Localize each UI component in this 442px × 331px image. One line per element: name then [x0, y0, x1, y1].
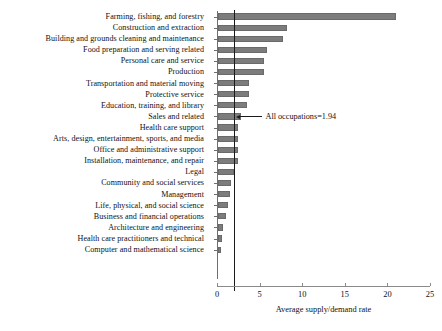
bar-row	[218, 67, 264, 78]
y-axis-tick	[214, 17, 217, 18]
category-label: Sales and related	[0, 111, 208, 122]
category-label: Computer and mathematical science	[0, 244, 208, 255]
reference-line	[234, 10, 236, 291]
bar	[218, 180, 231, 186]
x-axis-tick-label: 10	[298, 290, 306, 299]
x-axis-tick-label: 5	[258, 290, 262, 299]
bar	[218, 213, 226, 219]
category-label: Building and grounds cleaning and mainte…	[0, 33, 208, 44]
x-axis-tick	[302, 283, 303, 286]
x-axis-title: Average supply/demand rate	[217, 305, 430, 314]
category-label: Business and financial operations	[0, 211, 208, 222]
y-axis-tick	[214, 116, 217, 117]
x-axis-tick-label: 0	[215, 290, 219, 299]
reference-line-label: All occupations=1.94	[266, 112, 337, 121]
y-axis-tick	[214, 250, 217, 251]
category-label: Office and administrative support	[0, 144, 208, 155]
category-label: Management	[0, 189, 208, 200]
y-axis-tick	[214, 105, 217, 106]
category-label: Protective service	[0, 89, 208, 100]
bar-row	[218, 244, 221, 255]
y-axis-tick	[214, 227, 217, 228]
category-label: Health care support	[0, 122, 208, 133]
x-axis-tick	[260, 283, 261, 286]
bar-row	[218, 166, 234, 177]
bar-row	[218, 222, 223, 233]
supply-demand-bar-chart: Farming, fishing, and forestryConstructi…	[0, 0, 442, 331]
x-axis-tick-label: 25	[426, 290, 434, 299]
x-axis-tick	[217, 283, 218, 286]
x-axis-tick-label: 15	[341, 290, 349, 299]
y-axis-tick	[214, 150, 217, 151]
plot-area: All occupations=1.94	[217, 11, 430, 279]
bar	[218, 69, 264, 75]
bar-row	[218, 100, 247, 111]
category-label: Farming, fishing, and forestry	[0, 11, 208, 22]
y-axis-tick	[214, 139, 217, 140]
bar	[218, 235, 222, 241]
bar	[218, 169, 234, 175]
y-axis-tick	[214, 172, 217, 173]
y-axis-tick	[214, 83, 217, 84]
x-axis-tick	[345, 283, 346, 286]
bar-row	[218, 178, 231, 189]
bar-row	[218, 33, 283, 44]
y-axis-tick	[214, 194, 217, 195]
bar	[218, 13, 396, 19]
y-axis-tick	[214, 61, 217, 62]
x-axis-tick	[387, 283, 388, 286]
bar-row	[218, 22, 287, 33]
category-label: Legal	[0, 166, 208, 177]
y-axis-tick	[214, 239, 217, 240]
bar-row	[218, 200, 228, 211]
y-axis-tick	[214, 50, 217, 51]
bar	[218, 47, 267, 53]
category-label: Education, training, and library	[0, 100, 208, 111]
bar	[218, 247, 221, 253]
bar	[218, 191, 230, 197]
y-axis-tick	[214, 216, 217, 217]
category-label: Arts, design, entertainment, sports, and…	[0, 133, 208, 144]
bar-row	[218, 44, 267, 55]
bar	[218, 224, 223, 230]
bar	[218, 58, 264, 64]
y-axis-tick	[214, 128, 217, 129]
bar	[218, 202, 228, 208]
bar	[218, 102, 247, 108]
category-label: Production	[0, 66, 208, 77]
y-axis-tick	[214, 28, 217, 29]
y-axis-tick	[214, 183, 217, 184]
category-label: Installation, maintenance, and repair	[0, 155, 208, 166]
reference-line-annotation: All occupations=1.94	[236, 112, 337, 121]
category-label: Life, physical, and social science	[0, 200, 208, 211]
x-axis-tick-label: 20	[383, 290, 391, 299]
category-label: Personal care and service	[0, 55, 208, 66]
category-label: Construction and extraction	[0, 22, 208, 33]
category-label-column: Farming, fishing, and forestryConstructi…	[0, 11, 208, 279]
category-label: Community and social services	[0, 177, 208, 188]
bar-row	[218, 11, 396, 22]
y-axis-tick	[214, 161, 217, 162]
bar	[218, 25, 287, 31]
category-label: Transportation and material moving	[0, 78, 208, 89]
category-label: Food preparation and serving related	[0, 44, 208, 55]
category-label: Health care practitioners and technical	[0, 233, 208, 244]
bar-row	[218, 211, 226, 222]
bar	[218, 36, 283, 42]
x-axis-tick	[430, 283, 431, 286]
x-axis-line: 0510152025	[217, 286, 430, 287]
category-label: Architecture and engineering	[0, 222, 208, 233]
y-axis-tick	[214, 205, 217, 206]
y-axis-tick	[214, 72, 217, 73]
y-axis-tick	[214, 94, 217, 95]
leader-line	[240, 116, 262, 117]
bar-row	[218, 189, 230, 200]
y-axis-tick	[214, 39, 217, 40]
bar-row	[218, 55, 264, 66]
bar-row	[218, 233, 222, 244]
